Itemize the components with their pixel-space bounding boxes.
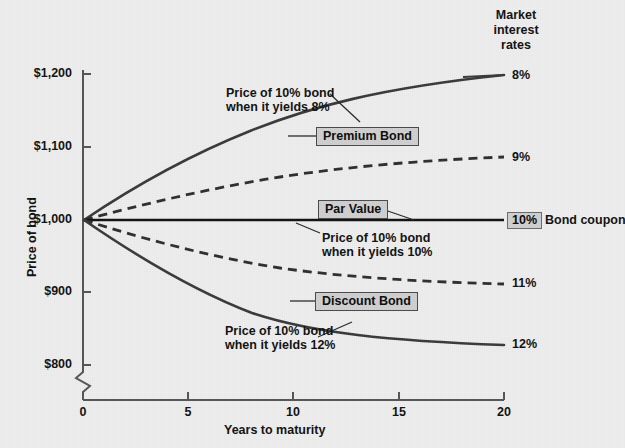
y-axis-title: Price of bond (26, 197, 39, 277)
y-tick-label-1000: $1,000 (8, 213, 72, 226)
x-tick-label-20: 20 (484, 406, 524, 419)
leader-line-10pct-annotation (296, 223, 320, 233)
series-label-9pct: 9% (512, 151, 530, 164)
series-line-11pct (84, 220, 504, 284)
y-tick-label-900: $900 (8, 285, 72, 298)
x-tick-label-15: 15 (379, 406, 419, 419)
legend-title-line2: interest (476, 23, 556, 38)
bond-price-chart: $1,200 $1,100 $1,000 $900 $800 0 5 10 15… (0, 0, 625, 448)
annotation-10pct-line1: Price of 10% bond (322, 231, 430, 246)
x-tick-label-10: 10 (273, 406, 313, 419)
x-tick-label-0: 0 (63, 406, 103, 419)
series-label-8pct: 8% (512, 69, 530, 82)
x-axis-title: Years to maturity (224, 424, 325, 437)
y-tick-label-1200: $1,200 (8, 67, 72, 80)
legend-title-line3: rates (476, 38, 556, 53)
series-label-11pct: 11% (512, 277, 536, 290)
callout-premium-bond: Premium Bond (316, 127, 419, 146)
series-label-10pct-badge: 10% (507, 212, 542, 229)
series-label-12pct: 12% (512, 338, 537, 351)
series-line-9pct (84, 157, 504, 220)
annotation-12pct-line2: when it yields 12% (225, 338, 335, 353)
y-tick-label-1100: $1,100 (8, 140, 72, 153)
annotation-10pct-line2: when it yields 10% (322, 245, 432, 260)
annotation-8pct-line1: Price of 10% bond (226, 86, 334, 101)
y-tick-label-800: $800 (8, 358, 72, 371)
annotation-8pct-line2: when it yields 8% (226, 100, 330, 115)
callout-discount-bond: Discount Bond (315, 292, 418, 311)
bond-coupon-note: Bond coupon (545, 214, 625, 227)
x-tick-label-5: 5 (168, 406, 208, 419)
legend-title-line1: Market (476, 8, 556, 23)
callout-par-value: Par Value (318, 200, 388, 219)
annotation-12pct-line1: Price of 10% bond (225, 324, 333, 339)
